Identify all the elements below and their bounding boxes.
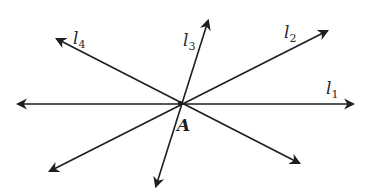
line-l1-label: l1 xyxy=(326,78,338,101)
lines-through-point-diagram: l1 l2 l3 l4 A xyxy=(0,0,372,196)
line-l4-label: l4 xyxy=(73,28,85,51)
point-a-dot xyxy=(178,101,182,105)
line-l4: l4 xyxy=(57,28,299,163)
line-l3-label: l3 xyxy=(183,30,195,53)
line-l4-segment xyxy=(57,39,299,163)
line-l2-label: l2 xyxy=(284,22,296,45)
point-a-label: A xyxy=(175,115,190,135)
